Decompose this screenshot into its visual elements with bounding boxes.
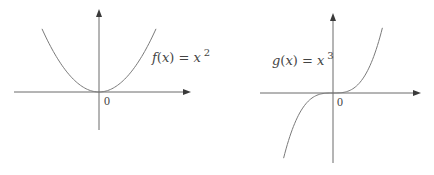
origin-label-g: 0 <box>337 95 343 109</box>
y-axis-arrow-f <box>96 9 102 17</box>
label-f-exponent: 2 <box>204 47 210 58</box>
x-axis-arrow-g <box>413 90 421 96</box>
label-g: g(x) = x3 <box>272 50 334 68</box>
label-g-name: g <box>272 53 280 68</box>
function-graphs: f(x) = x2 0 g(x) = x3 0 <box>0 0 434 175</box>
graph-f: f(x) = x2 0 <box>14 9 210 130</box>
origin-label-f: 0 <box>104 94 110 108</box>
label-f: f(x) = x2 <box>151 47 210 65</box>
label-g-paren-close: ) <box>293 53 302 68</box>
label-g-exponent: 3 <box>327 50 333 61</box>
label-f-base: x <box>194 50 202 65</box>
label-f-paren-close: ) <box>169 50 178 65</box>
graph-g: g(x) = x3 0 <box>260 13 421 163</box>
label-g-equals: = <box>302 53 313 68</box>
x-axis-arrow-f <box>183 89 191 95</box>
y-axis-arrow-g <box>330 13 336 21</box>
label-g-base: x <box>317 53 325 68</box>
label-f-equals: = <box>178 50 189 65</box>
